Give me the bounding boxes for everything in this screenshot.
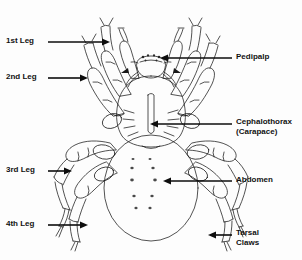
label-third-leg-line1: 3rd Leg: [6, 165, 35, 175]
label-cephalothorax-line1: Cephalothorax: [236, 117, 292, 127]
label-abdomen-line1: Abdomen: [236, 175, 273, 185]
label-cephalothorax-line2: (Carapace): [236, 127, 292, 137]
label-third-leg: 3rd Leg: [6, 165, 35, 175]
label-fourth-leg: 4th Leg: [6, 219, 34, 229]
label-pedipalp-line1: Pedipalp: [236, 52, 269, 62]
label-tarsal-claws: TarsalClaws: [236, 228, 259, 248]
label-first-leg-line1: 1st Leg: [6, 36, 34, 46]
label-cephalothorax: Cephalothorax(Carapace): [236, 117, 292, 137]
label-fourth-leg-line1: 4th Leg: [6, 219, 34, 229]
label-second-leg-line1: 2nd Leg: [6, 72, 37, 82]
label-abdomen: Abdomen: [236, 175, 273, 185]
label-first-leg: 1st Leg: [6, 36, 34, 46]
label-pedipalp: Pedipalp: [236, 52, 269, 62]
label-tarsal-claws-line2: Claws: [236, 238, 259, 248]
label-tarsal-claws-line1: Tarsal: [236, 228, 259, 238]
label-second-leg: 2nd Leg: [6, 72, 37, 82]
